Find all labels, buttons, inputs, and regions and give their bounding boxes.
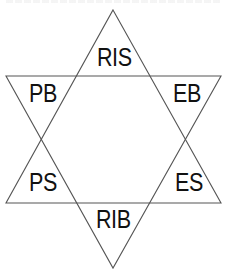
label-lower-left-point: PS — [29, 170, 57, 195]
label-lower-right-point: ES — [175, 170, 203, 195]
label-upper-right-point: EB — [173, 81, 201, 106]
label-top-point: RIS — [97, 45, 132, 70]
label-bottom-point: RIB — [96, 207, 131, 232]
hexagram-diagram — [0, 0, 227, 276]
label-upper-left-point: PB — [29, 81, 57, 106]
